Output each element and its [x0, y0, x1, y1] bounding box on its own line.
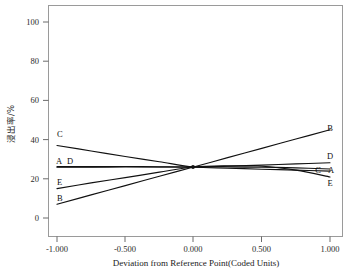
y-axis-title: 浸出率/%: [6, 105, 16, 143]
series-curve-e: [57, 166, 330, 189]
y-tick-label-80: 80: [31, 56, 40, 66]
x-tick-label-neg05: -0.500: [114, 244, 136, 254]
series-label-right-e: E: [327, 178, 332, 188]
x-tick-label-1: 1.000: [320, 244, 339, 254]
left-series-labels: C A D E B: [56, 129, 73, 203]
x-axis-ticks: [57, 237, 330, 243]
line-chart-svg: 0 20 40 60 80 100 -1.000 -0.500 0.000 0.…: [0, 0, 352, 274]
y-tick-label-0: 0: [35, 213, 39, 223]
x-tick-label-neg1: -1.000: [46, 244, 68, 254]
series-label-left-d: D: [67, 156, 73, 166]
y-tick-label-20: 20: [31, 174, 40, 184]
x-tick-label-0: 0.000: [183, 244, 202, 254]
series-label-left-c: C: [57, 129, 63, 139]
y-axis-ticks: [43, 22, 49, 218]
y-tick-label-40: 40: [31, 135, 40, 145]
series-label-right-a: A: [328, 165, 335, 175]
y-tick-label-60: 60: [31, 95, 40, 105]
x-axis-title: Deviation from Reference Point(Coded Uni…: [113, 258, 279, 268]
chart-container: 0 20 40 60 80 100 -1.000 -0.500 0.000 0.…: [0, 0, 352, 274]
y-tick-label-100: 100: [26, 17, 39, 27]
y-axis-tick-labels: 0 20 40 60 80 100: [26, 17, 39, 223]
x-axis-tick-labels: -1.000 -0.500 0.000 0.500 1.000: [46, 244, 340, 254]
series-label-left-e: E: [57, 177, 62, 187]
series-label-right-d: D: [327, 151, 333, 161]
series-label-left-b: B: [57, 193, 63, 203]
reference-point-marker: [191, 165, 195, 169]
series-label-left-a: A: [56, 156, 63, 166]
x-tick-label-05: 0.500: [252, 244, 271, 254]
plot-frame: [49, 6, 343, 237]
series-label-right-b: B: [327, 123, 333, 133]
series-label-right-c: C: [315, 165, 321, 175]
